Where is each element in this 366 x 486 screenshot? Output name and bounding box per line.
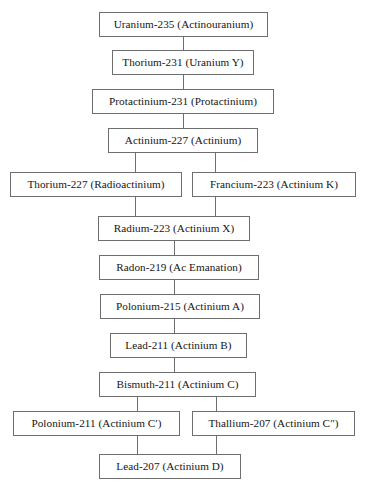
node-ra223: Radium-223 (Actinium X) (98, 216, 250, 241)
node-th227: Thorium-227 (Radioactinium) (10, 172, 182, 197)
decay-chain-diagram: Uranium-235 (Actinouranium)Thorium-231 (… (0, 0, 366, 486)
connector-ra223-to-rn219 (174, 241, 175, 255)
node-po211: Polonium-211 (Actinium C′) (13, 411, 180, 436)
connector-ac227-to-fr223 (215, 153, 216, 172)
connector-po215-to-pb211 (174, 319, 175, 333)
connector-ac227-to-th227 (135, 153, 136, 172)
connector-bi211-to-tl207 (216, 397, 217, 411)
node-tl207: Thallium-207 (Actinium C″) (192, 411, 355, 436)
node-pa231: Protactinium-231 (Protactinium) (92, 89, 274, 114)
connector-tl207-to-pb207 (216, 436, 217, 454)
node-fr223: Francium-223 (Actinium K) (192, 172, 356, 197)
node-pb211: Lead-211 (Actinium B) (110, 333, 247, 358)
node-rn219: Radon-219 (Ac Emanation) (99, 255, 259, 280)
connector-th227-to-ra223 (135, 197, 136, 216)
connector-th231-to-pa231 (183, 75, 184, 89)
connector-po211-to-pb207 (137, 436, 138, 454)
connector-fr223-to-ra223 (215, 197, 216, 216)
node-bi211: Bismuth-211 (Actinium C) (99, 372, 256, 397)
connector-u235-to-th231 (183, 37, 184, 50)
connector-pb211-to-bi211 (174, 358, 175, 372)
node-ac227: Actinium-227 (Actinium) (108, 128, 258, 153)
connector-bi211-to-po211 (137, 397, 138, 411)
node-th231: Thorium-231 (Uranium Y) (112, 50, 254, 75)
node-pb207: Lead-207 (Actinium D) (99, 454, 241, 479)
node-po215: Polonium-215 (Actinium A) (100, 294, 260, 319)
node-u235: Uranium-235 (Actinouranium) (99, 12, 268, 37)
connector-pa231-to-ac227 (183, 114, 184, 128)
connector-rn219-to-po215 (174, 280, 175, 294)
